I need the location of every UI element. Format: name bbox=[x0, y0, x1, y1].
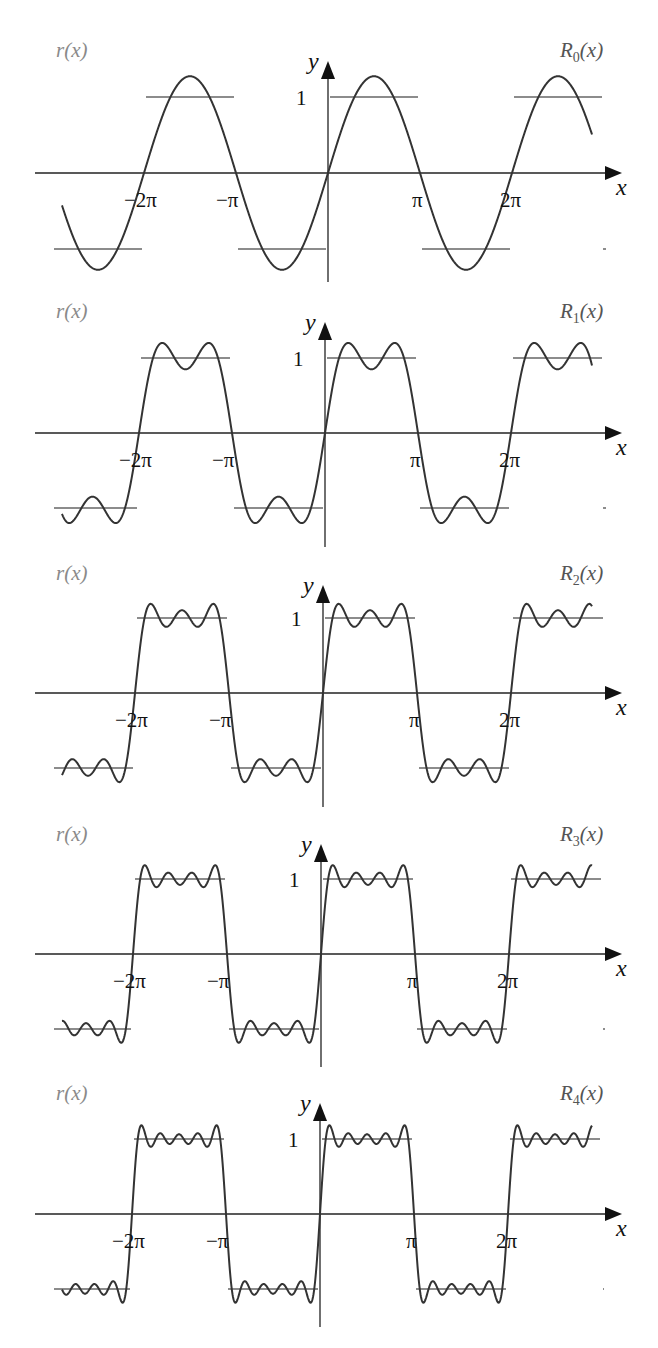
right-function-label: R4(x) bbox=[559, 1081, 603, 1108]
y-axis-arrow-icon bbox=[316, 585, 330, 603]
x-axis-label: x bbox=[615, 955, 627, 981]
y-axis-label: y bbox=[301, 572, 314, 598]
x-tick-label: −2π bbox=[115, 708, 148, 732]
x-tick-label: −2π bbox=[112, 1229, 145, 1253]
x-tick-label: −2π bbox=[119, 448, 152, 472]
left-function-label: r(x) bbox=[56, 561, 87, 585]
y-axis-arrow-icon bbox=[321, 61, 335, 79]
chart-panel-0: r(x)R0(x)yx1−2π−ππ2π bbox=[35, 38, 627, 282]
left-function-label: r(x) bbox=[56, 38, 87, 62]
x-tick-label: −2π bbox=[124, 188, 157, 212]
fourier-partial-sums-figure: r(x)R0(x)yx1−2π−ππ2πr(x)R1(x)yx1−2π−ππ2π… bbox=[0, 0, 658, 1348]
y-axis-label: y bbox=[298, 1090, 311, 1116]
x-tick-label: 2π bbox=[499, 708, 521, 732]
x-tick-label: π bbox=[409, 708, 420, 732]
x-axis-label: x bbox=[615, 1215, 627, 1241]
x-tick-label: −π bbox=[216, 188, 239, 212]
right-function-label: R0(x) bbox=[559, 38, 603, 65]
right-function-label: R2(x) bbox=[559, 561, 603, 588]
chart-panel-4: r(x)R4(x)yx1−2π−ππ2π bbox=[35, 1081, 627, 1327]
x-tick-label: π bbox=[406, 1229, 417, 1253]
y-axis-label: y bbox=[306, 48, 319, 74]
right-function-label: R3(x) bbox=[559, 822, 603, 849]
y-tick-label: 1 bbox=[291, 607, 302, 631]
chart-panel-1: r(x)R1(x)yx1−2π−ππ2π bbox=[35, 299, 627, 547]
y-tick-label: 1 bbox=[296, 86, 307, 110]
x-tick-label: π bbox=[410, 448, 421, 472]
y-axis-arrow-icon bbox=[313, 1103, 327, 1121]
y-tick-label: 1 bbox=[293, 347, 304, 371]
x-tick-label: −π bbox=[209, 708, 232, 732]
x-axis-label: x bbox=[615, 694, 627, 720]
left-function-label: r(x) bbox=[56, 1081, 87, 1105]
x-axis-label: x bbox=[615, 434, 627, 460]
x-tick-label: −2π bbox=[113, 969, 146, 993]
x-tick-label: π bbox=[407, 969, 418, 993]
y-axis-arrow-icon bbox=[314, 844, 328, 862]
y-axis-label: y bbox=[299, 831, 312, 857]
x-axis-label: x bbox=[615, 174, 627, 200]
x-tick-label: −π bbox=[206, 1229, 229, 1253]
x-tick-label: π bbox=[412, 188, 423, 212]
y-tick-label: 1 bbox=[289, 868, 300, 892]
x-tick-label: 2π bbox=[500, 188, 522, 212]
left-function-label: r(x) bbox=[56, 299, 87, 323]
chart-panel-3: r(x)R3(x)yx1−2π−ππ2π bbox=[35, 822, 627, 1067]
left-function-label: r(x) bbox=[56, 822, 87, 846]
x-tick-label: 2π bbox=[499, 448, 521, 472]
x-tick-label: −π bbox=[207, 969, 230, 993]
y-tick-label: 1 bbox=[288, 1128, 299, 1152]
y-axis-label: y bbox=[303, 309, 316, 335]
x-tick-label: 2π bbox=[496, 1229, 518, 1253]
right-function-label: R1(x) bbox=[559, 299, 603, 326]
chart-panel-2: r(x)R2(x)yx1−2π−ππ2π bbox=[35, 561, 627, 807]
x-tick-label: 2π bbox=[497, 969, 519, 993]
x-tick-label: −π bbox=[212, 448, 235, 472]
y-axis-arrow-icon bbox=[318, 322, 332, 340]
